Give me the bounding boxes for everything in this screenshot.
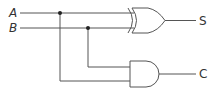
xor-gate xyxy=(128,8,165,33)
output-label-c: C xyxy=(199,68,207,80)
output-label-s: S xyxy=(199,15,207,27)
wire-a-branch xyxy=(60,13,130,81)
input-label-a: A xyxy=(9,7,17,19)
half-adder-diagram: A B S C xyxy=(0,0,208,91)
circuit-svg xyxy=(0,0,208,91)
junction-a xyxy=(58,11,62,15)
wire-b-branch xyxy=(88,28,130,67)
input-label-b: B xyxy=(9,22,17,34)
and-gate xyxy=(130,61,159,87)
junction-b xyxy=(86,26,90,30)
